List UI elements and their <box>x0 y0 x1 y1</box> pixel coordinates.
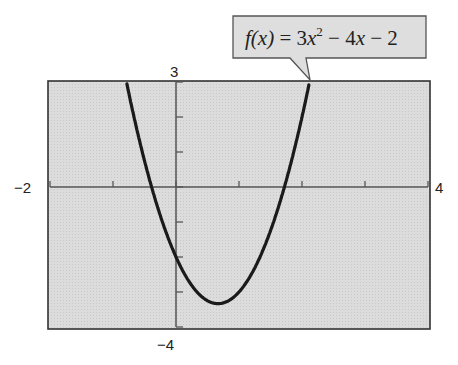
y-min-label: −4 <box>157 336 174 353</box>
x-max-label: 4 <box>435 179 443 196</box>
function-callout: f(x) = 3x2 − 4x − 2 <box>233 16 426 80</box>
function-graph: −2 4 3 −4 f(x) = 3x2 − 4x − 2 <box>0 0 458 365</box>
x-min-label: −2 <box>14 179 31 196</box>
y-max-label: 3 <box>170 63 178 80</box>
